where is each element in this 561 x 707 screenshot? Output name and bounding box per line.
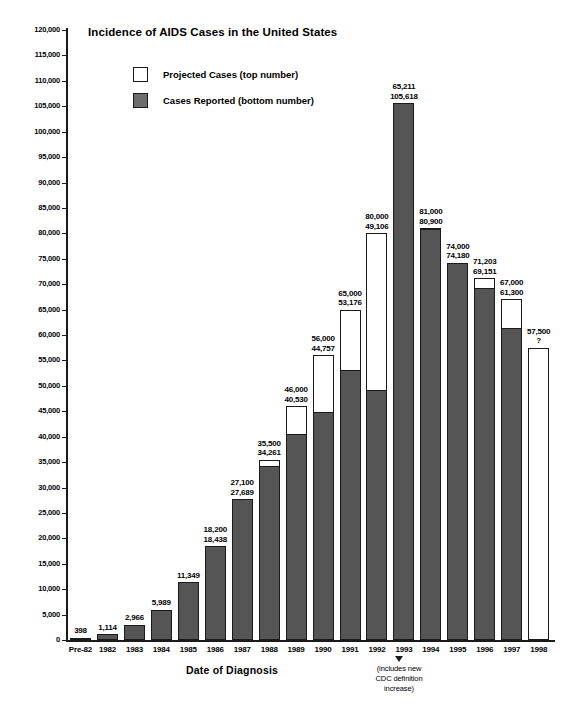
bar-reported[interactable] <box>151 610 172 640</box>
bar-reported[interactable] <box>70 638 91 640</box>
bar-group-1990[interactable] <box>313 355 334 640</box>
bar-group-1986[interactable] <box>205 546 226 640</box>
bar-value-label-1997: 67,00061,300 <box>477 278 547 297</box>
bar-reported[interactable] <box>420 229 441 640</box>
y-axis-tick-label: 110,000 <box>12 77 60 85</box>
cdc-definition-note: (includes new CDC definition increase) <box>341 664 457 694</box>
bar-group-1982[interactable] <box>97 634 118 640</box>
y-axis-tick-label: 45,000 <box>12 407 60 415</box>
bar-value-label-1993: 65,211105,618 <box>369 82 439 101</box>
bar-reported[interactable] <box>366 390 387 640</box>
legend-label-reported: Cases Reported (bottom number) <box>163 95 314 106</box>
y-axis-tick-label: 15,000 <box>12 560 60 568</box>
bar-reported[interactable] <box>340 370 361 640</box>
y-axis-tick-label: 105,000 <box>12 102 60 110</box>
legend-item-projected: Projected Cases (top number) <box>133 67 314 82</box>
y-axis-tick-mark <box>62 81 67 82</box>
y-axis-tick-label: 35,000 <box>12 458 60 466</box>
y-axis-tick-label: 5,000 <box>12 611 60 619</box>
bar-group-1983[interactable] <box>124 625 145 640</box>
bar-reported-value: 105,618 <box>369 92 439 102</box>
y-axis-tick-label: 120,000 <box>12 26 60 34</box>
bar-group-1989[interactable] <box>286 406 307 640</box>
legend-swatch-reported-icon <box>133 93 148 108</box>
y-axis-tick-mark <box>62 640 67 641</box>
cdc-note-line-1: (includes new <box>341 664 457 674</box>
bar-reported[interactable] <box>313 412 334 640</box>
bar-reported[interactable] <box>393 103 414 640</box>
bar-group-1991[interactable] <box>340 310 361 640</box>
y-axis-tick-label: 40,000 <box>12 433 60 441</box>
aids-incidence-chart: Incidence of AIDS Cases in the United St… <box>0 0 561 707</box>
y-axis-tick-mark <box>62 132 67 133</box>
x-axis-title: Date of Diagnosis <box>186 664 278 676</box>
bar-group-pre-82[interactable] <box>70 638 91 640</box>
bar-reported[interactable] <box>259 466 280 640</box>
legend-item-reported: Cases Reported (bottom number) <box>133 93 314 108</box>
cdc-note-line-3: increase) <box>341 684 457 694</box>
y-axis-tick-label: 10,000 <box>12 585 60 593</box>
y-axis-tick-mark <box>62 208 67 209</box>
legend-swatch-projected-icon <box>133 67 148 82</box>
bar-group-1997[interactable] <box>501 299 522 640</box>
y-axis-tick-mark <box>62 538 67 539</box>
bar-projected-value: 57,500 <box>504 327 561 337</box>
bar-group-1994[interactable] <box>420 228 441 640</box>
bar-group-1988[interactable] <box>259 460 280 640</box>
y-axis-tick-label: 0 <box>12 636 60 644</box>
bar-reported[interactable] <box>178 582 199 640</box>
bar-reported[interactable] <box>205 546 226 640</box>
bar-projected-value: 81,000 <box>396 207 466 217</box>
bar-value-label-1998: 57,500? <box>504 327 561 346</box>
bar-value-label-1996: 71,20369,151 <box>450 257 520 276</box>
bar-group-1987[interactable] <box>232 499 253 640</box>
chart-legend: Projected Cases (top number) Cases Repor… <box>133 67 314 119</box>
y-axis-tick-label: 100,000 <box>12 128 60 136</box>
bar-projected-value: 74,000 <box>423 242 493 252</box>
y-axis-tick-label: 90,000 <box>12 179 60 187</box>
y-axis-tick-label: 50,000 <box>12 382 60 390</box>
y-axis-tick-mark <box>62 488 67 489</box>
y-axis-tick-mark <box>62 259 67 260</box>
bar-group-1995[interactable] <box>447 263 468 640</box>
bar-group-1996[interactable] <box>474 278 495 640</box>
y-axis-tick-mark <box>62 462 67 463</box>
y-axis-tick-mark <box>62 513 67 514</box>
bar-reported[interactable] <box>124 625 145 640</box>
y-axis-tick-label: 25,000 <box>12 509 60 517</box>
bar-group-1985[interactable] <box>178 582 199 640</box>
y-axis-tick-mark <box>62 335 67 336</box>
x-axis-line <box>66 640 555 642</box>
y-axis-tick-label: 20,000 <box>12 534 60 542</box>
bar-group-1984[interactable] <box>151 610 172 640</box>
y-axis-tick-label: 70,000 <box>12 280 60 288</box>
y-axis-tick-label: 55,000 <box>12 356 60 364</box>
y-axis-tick-mark <box>62 589 67 590</box>
y-axis-tick-mark <box>62 437 67 438</box>
chart-title: Incidence of AIDS Cases in the United St… <box>88 26 337 38</box>
bar-group-1993[interactable] <box>393 103 414 640</box>
bar-projected-value: 71,203 <box>450 257 520 267</box>
bar-projected[interactable] <box>528 348 549 640</box>
y-axis-tick-mark <box>62 183 67 184</box>
bar-group-1998[interactable] <box>528 348 549 640</box>
bar-group-1992[interactable] <box>366 233 387 640</box>
y-axis-tick-mark <box>62 386 67 387</box>
bar-reported[interactable] <box>97 634 118 640</box>
cdc-note-arrow-icon <box>395 656 403 662</box>
bar-reported[interactable] <box>474 288 495 640</box>
bar-reported[interactable] <box>232 499 253 640</box>
bar-reported[interactable] <box>286 434 307 640</box>
y-axis-tick-mark <box>62 615 67 616</box>
legend-label-projected: Projected Cases (top number) <box>163 69 298 80</box>
x-axis-label-1998: 1998 <box>516 645 561 654</box>
bar-reported-value: 80,900 <box>396 217 466 227</box>
y-axis-tick-label: 65,000 <box>12 306 60 314</box>
y-axis-tick-label: 115,000 <box>12 51 60 59</box>
y-axis-tick-label: 85,000 <box>12 204 60 212</box>
bar-reported[interactable] <box>447 263 468 640</box>
bar-reported[interactable] <box>501 328 522 640</box>
y-axis-tick-label: 95,000 <box>12 153 60 161</box>
y-axis-tick-mark <box>62 55 67 56</box>
y-axis-tick-label: 80,000 <box>12 229 60 237</box>
